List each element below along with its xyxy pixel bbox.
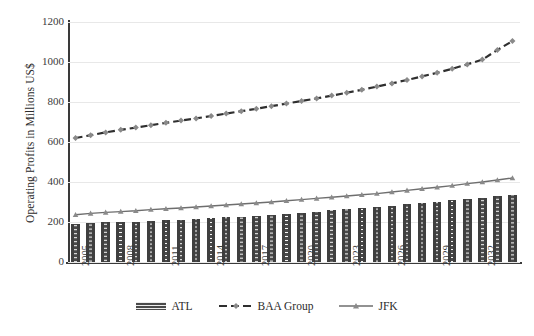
line-series-jfk (73, 175, 516, 217)
x-tick-label: 2029 (441, 226, 452, 266)
legend-label: ATL (171, 300, 192, 312)
y-axis-tick-labels: 020040060080010001200 (0, 0, 64, 336)
legend-item-jfk[interactable]: JFK (339, 300, 397, 312)
data-point-marker-diamond (163, 120, 169, 126)
y-tick-label: 1200 (4, 16, 64, 27)
data-point-marker-diamond (359, 87, 365, 93)
data-point-marker-diamond (449, 66, 455, 72)
operating-profits-chart: Operating Profits in Millions US$ 020040… (0, 0, 534, 336)
solid-line-triangle-swatch (339, 301, 373, 311)
x-tick-label: 2017 (260, 226, 271, 266)
data-point-marker-diamond (329, 93, 335, 99)
y-tick-label: 400 (4, 176, 64, 187)
data-point-marker-diamond (103, 129, 109, 135)
series-path (76, 41, 513, 138)
y-tick-label: 600 (4, 136, 64, 147)
data-point-marker-diamond (133, 125, 139, 131)
legend-item-atl[interactable]: ATL (136, 300, 192, 312)
y-tick-label: 800 (4, 96, 64, 107)
data-point-marker-diamond (88, 132, 94, 138)
data-point-marker-diamond (464, 61, 470, 67)
dashed-line-diamond-swatch (219, 301, 253, 311)
legend-item-baa-group[interactable]: BAA Group (219, 300, 314, 312)
x-tick-label: 2011 (170, 226, 181, 266)
x-tick-label: 2023 (351, 226, 362, 266)
data-point-marker-diamond (434, 70, 440, 76)
data-point-marker-diamond (268, 103, 274, 109)
bar-pattern-swatch (136, 302, 166, 310)
line-series-baa-group (73, 38, 516, 141)
data-point-marker-diamond (148, 122, 154, 128)
data-point-marker-diamond (208, 113, 214, 119)
data-point-marker-diamond (404, 77, 410, 83)
legend-label: JFK (378, 300, 397, 312)
x-tick-label: 2014 (215, 226, 226, 266)
chart-legend: ATLBAA GroupJFK (0, 300, 534, 312)
data-point-marker-diamond (374, 84, 380, 90)
data-point-marker-diamond (253, 106, 259, 112)
series-path (76, 178, 513, 215)
x-tick-label: 2032 (486, 226, 497, 266)
data-point-marker-diamond (178, 118, 184, 124)
data-point-marker-diamond (223, 111, 229, 117)
data-point-marker-diamond (419, 73, 425, 79)
data-point-marker-diamond (314, 95, 320, 101)
data-point-marker-diamond (73, 135, 79, 141)
y-tick-label: 1000 (4, 56, 64, 67)
y-tick-label: 200 (4, 216, 64, 227)
data-point-marker-diamond (193, 115, 199, 121)
x-tick-label: 2026 (396, 226, 407, 266)
data-point-marker-diamond (299, 98, 305, 104)
x-tick-label: 2005 (80, 226, 91, 266)
data-point-marker-diamond (118, 127, 124, 133)
y-tick-label: 0 (4, 256, 64, 267)
data-point-marker-diamond (233, 303, 239, 309)
data-point-marker-diamond (389, 80, 395, 86)
data-point-marker-diamond (238, 108, 244, 114)
legend-label: BAA Group (258, 300, 314, 312)
data-point-marker-diamond (509, 38, 515, 44)
data-point-marker-diamond (283, 101, 289, 107)
data-point-marker-diamond (344, 90, 350, 96)
x-tick-label: 2020 (306, 226, 317, 266)
data-point-marker-diamond (479, 57, 485, 63)
x-tick-label: 2008 (125, 226, 136, 266)
